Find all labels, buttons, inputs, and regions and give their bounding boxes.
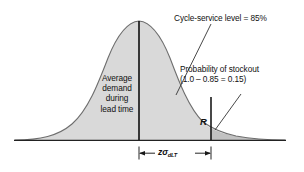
safety-stock-subscript: dLT: [168, 152, 177, 158]
probability-of-stockout-label: Probability of stockout(1.0 – 0.85 = 0.1…: [180, 64, 259, 84]
distribution-drawing: [0, 0, 304, 172]
average-demand-line3: during: [95, 93, 139, 103]
safety-stock-symbol: zσ: [158, 147, 168, 157]
average-demand-line4: lead time: [95, 104, 139, 114]
normal-distribution-figure: Cycle-service level = 85% Probability of…: [0, 0, 304, 172]
stockout-label-line2: (1.0 – 0.85 = 0.15): [180, 74, 246, 84]
stockout-label-line1: Probability of stockout: [180, 64, 259, 74]
cycle-service-level-label: Cycle-service level = 85%: [174, 13, 267, 23]
average-demand-line1: Average: [95, 73, 139, 83]
average-demand-label: Average demand during lead time: [95, 73, 139, 114]
safety-stock-label: zσdLT: [158, 147, 177, 160]
reorder-point-label: R: [200, 117, 207, 127]
stockout-leader-line: [215, 94, 241, 130]
average-demand-line2: demand: [95, 83, 139, 93]
